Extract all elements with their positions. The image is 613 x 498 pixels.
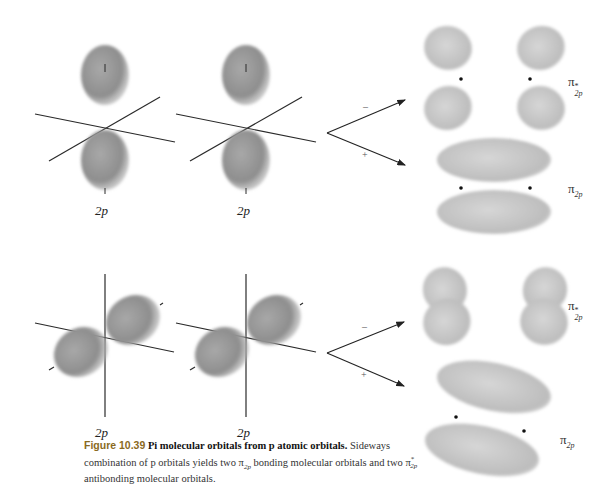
figure-title: Pi molecular orbitals from p atomic orbi… [148, 440, 347, 451]
top-bonding-mo [437, 138, 551, 234]
top-atomic-orbital-2 [176, 45, 316, 194]
bottom-atomic-orbital-2 [176, 274, 316, 417]
bottom-antibonding-mo [415, 260, 575, 353]
top-pi-bonding-label: π2p [568, 181, 583, 199]
top-2p-label-1: 2p [95, 203, 108, 219]
p-lobe-lower [81, 130, 129, 190]
top-antibonding-mo [419, 21, 570, 136]
top-atomic-orbital-1 [35, 45, 175, 194]
top-2p-label-2: 2p [237, 203, 250, 219]
bottom-pi-antibonding-label: π*2p [568, 298, 583, 321]
top-minus-sign: – [363, 101, 368, 112]
figure-number: Figure 10.39 [84, 439, 145, 451]
bottom-pi-bonding-label: π2p [560, 432, 575, 450]
caption-text-2: bonding molecular orbitals and two [251, 456, 406, 467]
p-lobe-upper [81, 45, 129, 105]
bottom-atomic-orbital-1 [35, 274, 174, 417]
caption-text-3: antibonding molecular orbitals. [84, 473, 216, 484]
bottom-minus-sign: – [362, 321, 367, 332]
top-pi-antibonding-label: π*2p [568, 74, 583, 97]
top-plus-sign: + [362, 149, 368, 160]
bottom-plus-sign: + [361, 369, 367, 380]
figure-caption: Figure 10.39 Pi molecular orbitals from … [84, 439, 444, 485]
orbital-figure [0, 0, 613, 498]
